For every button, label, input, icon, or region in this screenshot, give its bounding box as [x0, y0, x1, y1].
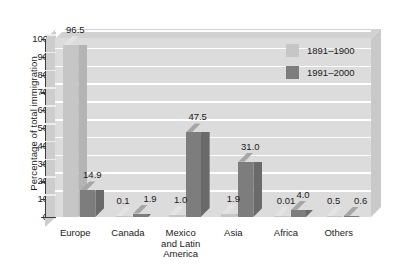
x-category-label-5: Others [312, 228, 365, 239]
y-tick-mark-70 [41, 92, 45, 93]
bar-front-face [63, 45, 78, 217]
y-tick-mark-60 [41, 110, 45, 111]
wall-gridline-50 [45, 123, 56, 125]
x-axis-line [45, 217, 56, 218]
bar-3-0[interactable] [221, 214, 236, 217]
bar-front-face [327, 216, 342, 217]
x-category-label-0: Europe [49, 228, 102, 239]
bar-front-face [133, 214, 148, 217]
x-category-label-3: Asia [207, 228, 260, 239]
bar-front-face [169, 215, 184, 217]
bar-front-face [238, 162, 253, 217]
wall-gridline-10 [45, 194, 56, 196]
y-tick-mark-0 [41, 217, 45, 218]
gridline-40 [55, 137, 371, 139]
wall-gridline-80 [45, 70, 56, 72]
bar-3-1[interactable] [238, 162, 253, 217]
value-label-1-1: 1.9 [133, 193, 167, 204]
y-tick-mark-100 [41, 39, 45, 40]
immigration-bar-chart: Percentage of total immigration 10090807… [0, 0, 394, 270]
value-label-2-0: 1.0 [164, 194, 198, 205]
bar-5-0[interactable] [327, 216, 342, 217]
x-category-label-2: Mexico and Latin America [154, 228, 207, 260]
bar-front-face [221, 214, 236, 217]
bar-2-0[interactable] [169, 215, 184, 217]
x-category-label-4: Africa [260, 228, 313, 239]
bar-side-face [253, 162, 262, 217]
legend-label-0: 1891–1900 [307, 45, 355, 56]
y-tick-mark-90 [41, 57, 45, 58]
wall-gridline-90 [45, 52, 56, 54]
wall-gridline-100 [45, 34, 56, 36]
y-tick-mark-80 [41, 75, 45, 76]
bar-5-1[interactable] [344, 216, 359, 217]
bar-front-face [291, 210, 306, 217]
legend-label-1: 1991–2000 [307, 67, 355, 78]
wall-gridline-40 [45, 141, 56, 143]
chart-legend: 1891–1900 1991–2000 [286, 42, 355, 86]
bar-front-face [344, 216, 359, 217]
y-tick-mark-50 [41, 128, 45, 129]
bar-0-1[interactable] [80, 190, 95, 217]
value-label-4-1: 4.0 [286, 189, 320, 200]
bar-4-1[interactable] [291, 210, 306, 217]
y-tick-mark-40 [41, 146, 45, 147]
value-label-0-0: 96.5 [58, 24, 92, 35]
bar-side-face [201, 132, 210, 217]
value-label-3-0: 1.9 [216, 193, 250, 204]
legend-swatch-icon-1 [286, 66, 299, 79]
bar-1-1[interactable] [133, 214, 148, 217]
x-category-label-1: Canada [102, 228, 155, 239]
bar-front-face [116, 216, 131, 217]
plot-right-wall [371, 29, 381, 217]
plot-floor [55, 217, 381, 227]
wall-gridline-60 [45, 105, 56, 107]
bar-1-0[interactable] [116, 216, 131, 217]
wall-gridline-70 [45, 87, 56, 89]
y-tick-mark-10 [41, 199, 45, 200]
wall-gridline-20 [45, 176, 56, 178]
legend-item-1[interactable]: 1991–2000 [286, 64, 355, 80]
gridline-30 [55, 155, 371, 157]
y-tick-mark-20 [41, 181, 45, 182]
value-label-2-1: 47.5 [181, 111, 215, 122]
bar-4-0[interactable] [274, 216, 289, 217]
legend-item-0[interactable]: 1891–1900 [286, 42, 355, 58]
value-label-0-1: 14.9 [75, 169, 109, 180]
gridline-100 [55, 30, 371, 32]
bar-front-face [80, 190, 95, 217]
y-tick-mark-30 [41, 164, 45, 165]
bar-front-face [274, 216, 289, 217]
bar-0-0[interactable] [63, 45, 78, 217]
value-label-3-1: 31.0 [233, 141, 267, 152]
wall-gridline-30 [45, 159, 56, 161]
value-label-5-1: 0.6 [344, 195, 378, 206]
gridline-60 [55, 101, 371, 103]
legend-swatch-icon-0 [286, 44, 299, 57]
